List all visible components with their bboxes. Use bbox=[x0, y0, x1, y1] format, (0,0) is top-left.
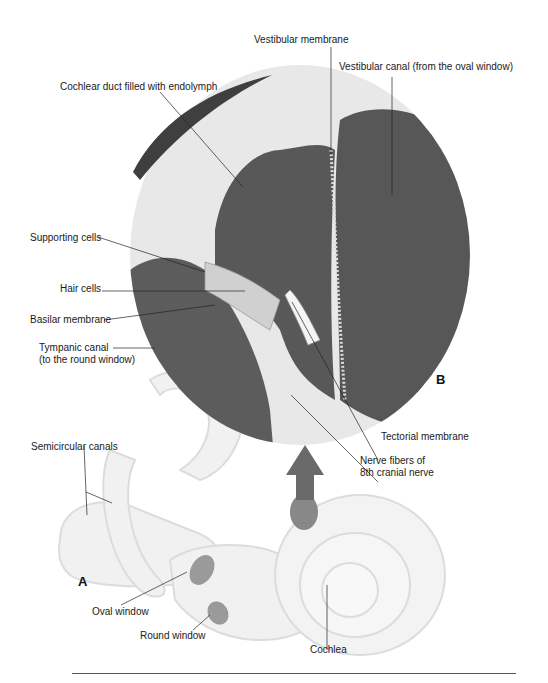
label-oval-window: Oval window bbox=[92, 606, 149, 618]
label-supporting-cells: Supporting cells bbox=[30, 232, 101, 244]
label-vestibular-membrane: Vestibular membrane bbox=[254, 34, 349, 46]
label-semicircular-canals: Semicircular canals bbox=[31, 441, 118, 453]
label-vestibular-canal: Vestibular canal (from the oval window) bbox=[339, 61, 513, 73]
label-cochlear-duct: Cochlear duct filled with endolymph bbox=[60, 81, 217, 93]
bottom-rule bbox=[72, 673, 516, 674]
label-tectorial-membrane: Tectorial membrane bbox=[381, 431, 469, 443]
label-tympanic-canal: Tympanic canal (to the round window) bbox=[39, 342, 135, 366]
label-nerve-fibers-line2: 8th cranial nerve bbox=[360, 467, 434, 479]
label-hair-cells: Hair cells bbox=[60, 283, 101, 295]
label-basilar-membrane: Basilar membrane bbox=[30, 314, 111, 326]
panel-label-a: A bbox=[78, 574, 87, 589]
arrow-icon bbox=[286, 445, 324, 500]
label-tympanic-canal-line2: (to the round window) bbox=[39, 354, 135, 366]
label-cochlea: Cochlea bbox=[310, 644, 347, 656]
label-tympanic-canal-line1: Tympanic canal bbox=[39, 342, 135, 354]
label-round-window: Round window bbox=[140, 630, 206, 642]
label-nerve-fibers-line1: Nerve fibers of bbox=[360, 455, 434, 467]
panel-label-b: B bbox=[436, 372, 445, 387]
label-nerve-fibers: Nerve fibers of 8th cranial nerve bbox=[360, 455, 434, 479]
